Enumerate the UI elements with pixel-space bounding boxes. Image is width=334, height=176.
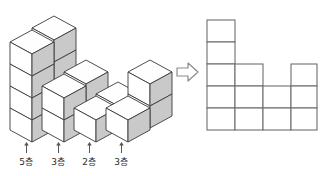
- grid-column-2: [235, 64, 263, 130]
- up-arrow-icon: [118, 142, 125, 153]
- floor-label-row: 5층 3층 2층 3층: [0, 142, 180, 176]
- floor-label-text: 2층: [72, 155, 106, 168]
- grid-column-3: [263, 86, 291, 130]
- front-view-grid: [206, 18, 318, 132]
- up-arrow-icon: [55, 142, 62, 153]
- isometric-cube-stack: [0, 0, 180, 145]
- figure-canvas: 5층 3층 2층 3층: [0, 0, 334, 176]
- floor-label-4: 3층: [104, 142, 138, 168]
- floor-label-text: 3층: [104, 155, 138, 168]
- floor-label-1: 5층: [9, 142, 43, 168]
- floor-label-text: 3층: [41, 155, 75, 168]
- floor-label-3: 2층: [72, 142, 106, 168]
- up-arrow-icon: [86, 142, 93, 153]
- floor-label-2: 3층: [41, 142, 75, 168]
- right-arrow-icon: [175, 60, 201, 84]
- floor-label-text: 5층: [9, 155, 43, 168]
- up-arrow-icon: [23, 142, 30, 153]
- grid-column-1: [207, 20, 235, 130]
- grid-column-4: [291, 64, 317, 130]
